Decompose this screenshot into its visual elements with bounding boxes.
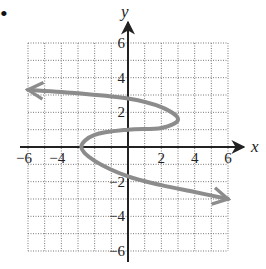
x-tick-label: 2 [158,150,166,166]
y-tick-label: −6 [109,243,125,259]
x-tick-labels: −6−4246 [16,150,232,166]
x-tick-label: 4 [191,150,199,166]
x-tick-label: −6 [16,150,32,166]
y-tick-label: 4 [118,70,126,86]
y-axis-label: y [119,2,129,21]
x-tick-label: 6 [224,150,232,166]
y-tick-label: 6 [118,35,126,51]
x-tick-label: −4 [49,150,65,166]
problem-bullet: • [0,1,8,26]
x-axis-label: x [250,137,259,156]
y-tick-label: −4 [109,208,125,224]
graph: • x y −6−4246 642−2−4−6 [0,0,266,269]
y-tick-label: 2 [118,104,126,120]
